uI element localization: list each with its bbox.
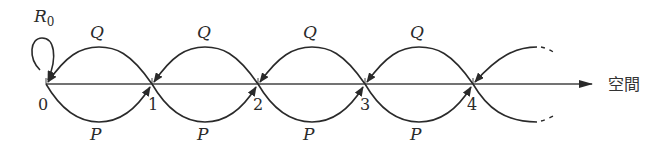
- node-label-1: 1: [148, 95, 158, 114]
- continuation-bottom: [541, 116, 553, 121]
- forward-arcs: [46, 84, 537, 122]
- p-label-3: P: [409, 124, 422, 144]
- q-label-0: Q: [90, 22, 104, 42]
- continuation-top: [541, 47, 555, 53]
- node-label-3: 3: [360, 95, 370, 114]
- backward-arcs: [48, 47, 537, 84]
- q-label-1: Q: [197, 22, 211, 42]
- self-loop-arrow: [32, 38, 54, 80]
- node-label-2: 2: [253, 95, 263, 114]
- node-label-4: 4: [467, 95, 477, 114]
- p-label-0: P: [89, 124, 102, 144]
- q-label-2: Q: [303, 22, 317, 42]
- p-label-1: P: [196, 124, 209, 144]
- axis-label: 空間: [608, 75, 640, 94]
- random-walk-diagram: R0 Q Q Q Q P P P P 0 1 2 3 4 空間: [0, 0, 672, 150]
- p-label-2: P: [302, 124, 315, 144]
- self-loop-label: R0: [33, 6, 54, 29]
- node-label-0: 0: [38, 95, 48, 114]
- node-ticks: [46, 78, 473, 84]
- q-label-3: Q: [410, 22, 424, 42]
